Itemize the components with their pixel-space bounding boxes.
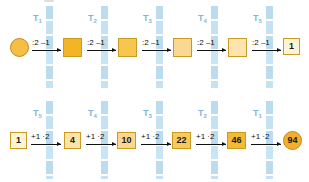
scan-artifact — [44, 0, 54, 2]
t-label-text: T — [143, 108, 149, 118]
t-label-text: T — [33, 13, 39, 23]
t-label-sub: 4 — [204, 18, 207, 24]
t-label-text: T — [143, 13, 149, 23]
node-value: 1 — [289, 42, 294, 51]
t-label-sub: 1 — [39, 18, 42, 24]
node-value: 46 — [231, 136, 241, 145]
node-row2-4[interactable]: 46 — [227, 132, 246, 149]
divider-strip-t5 — [266, 6, 273, 88]
t-label-sub: 4 — [94, 113, 97, 119]
t-label-row2-5: T1 — [253, 109, 262, 118]
operation-label-row2-2: +1 ·2 — [86, 133, 104, 141]
t-label-sub: 5 — [259, 18, 262, 24]
t-label-row2-4: T2 — [198, 109, 207, 118]
node-row1-2[interactable] — [118, 38, 137, 57]
t-label-sub: 3 — [149, 113, 152, 119]
operation-label-row1-3: :2 –1 — [142, 39, 160, 47]
diagram-canvas: T1 T2 T3 T4 T5 1 :2 –1 :2 –1 :2 –1 :2 –1… — [0, 0, 309, 182]
arrowhead-row1-1 — [57, 48, 61, 52]
node-row2-1[interactable]: 4 — [64, 132, 81, 149]
t-label-sub: 2 — [204, 113, 207, 119]
t-label-row1-1: T1 — [33, 14, 42, 23]
t-label-row1-4: T4 — [198, 14, 207, 23]
divider-strip-t1 — [46, 6, 53, 88]
operation-label-row1-1: :2 –1 — [32, 39, 50, 47]
arrowhead-row2-2 — [112, 142, 116, 146]
arrowhead-row1-3 — [167, 48, 171, 52]
t-label-text: T — [253, 108, 259, 118]
operation-label-row2-4: +1 ·2 — [196, 133, 214, 141]
node-row2-5[interactable]: 94 — [283, 131, 302, 150]
t-label-text: T — [33, 108, 39, 118]
node-row1-5[interactable]: 1 — [283, 38, 300, 55]
arrowhead-row2-3 — [167, 142, 171, 146]
t-label-row1-2: T2 — [88, 14, 97, 23]
divider-strip-t3 — [156, 6, 163, 88]
t-label-text: T — [198, 13, 204, 23]
arrowhead-row2-5 — [277, 142, 281, 146]
t-label-text: T — [253, 13, 259, 23]
t-label-sub: 3 — [149, 18, 152, 24]
t-label-sub: 1 — [259, 113, 262, 119]
arrowhead-row2-1 — [57, 142, 61, 146]
t-label-text: T — [88, 13, 94, 23]
arrowhead-row2-4 — [222, 142, 226, 146]
operation-label-row2-3: +1 ·2 — [141, 133, 159, 141]
operation-label-row1-2: :2 –1 — [87, 39, 105, 47]
divider-strip-t4 — [211, 6, 218, 88]
node-row1-1[interactable] — [63, 38, 82, 57]
operation-label-row1-4: :2 –1 — [197, 39, 215, 47]
t-label-row2-2: T4 — [88, 109, 97, 118]
t-label-text: T — [88, 108, 94, 118]
arrowhead-row1-2 — [112, 48, 116, 52]
t-label-row1-3: T3 — [143, 14, 152, 23]
node-row2-3[interactable]: 22 — [172, 132, 191, 149]
node-value: 1 — [16, 136, 21, 145]
arrowhead-row1-4 — [222, 48, 226, 52]
divider-strip-t2 — [101, 6, 108, 88]
node-row1-4[interactable] — [228, 38, 247, 57]
t-label-text: T — [198, 108, 204, 118]
t-label-sub: 5 — [39, 113, 42, 119]
t-label-row2-1: T5 — [33, 109, 42, 118]
node-row1-3[interactable] — [173, 38, 192, 57]
operation-label-row1-5: :2 –1 — [252, 39, 270, 47]
node-value: 4 — [70, 136, 75, 145]
t-label-sub: 2 — [94, 18, 97, 24]
t-label-row1-5: T5 — [253, 14, 262, 23]
arrowhead-row1-5 — [277, 48, 281, 52]
node-value: 10 — [121, 136, 131, 145]
t-label-row2-3: T3 — [143, 109, 152, 118]
node-value: 94 — [287, 136, 297, 145]
node-row1-0[interactable] — [10, 38, 29, 57]
node-value: 22 — [176, 136, 186, 145]
operation-label-row2-5: +1 ·2 — [251, 133, 269, 141]
operation-label-row2-1: +1 ·2 — [31, 133, 49, 141]
node-row2-2[interactable]: 10 — [117, 132, 136, 149]
node-row2-0[interactable]: 1 — [10, 132, 27, 149]
